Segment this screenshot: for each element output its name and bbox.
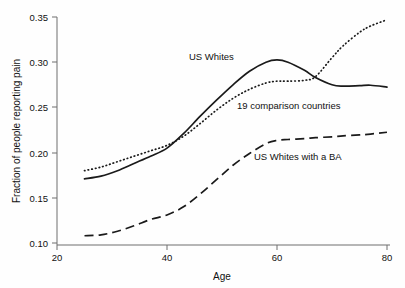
y-axis-title: Fraction of people reporting pain: [11, 59, 22, 203]
y-tick-label: 0.30: [30, 57, 49, 68]
chart-container: 0.35 0.30 0.25 0.20 0.15 0.10 20 40 60 8…: [0, 0, 405, 288]
series-annotation-comparison-countries: 19 comparison countries: [237, 100, 341, 111]
y-tick-label: 0.20: [30, 148, 49, 159]
x-tick-label: 60: [272, 252, 283, 263]
y-tick-label: 0.25: [30, 102, 49, 113]
line-chart-svg: 0.35 0.30 0.25 0.20 0.15 0.10 20 40 60 8…: [0, 0, 405, 288]
x-axis-title: Age: [213, 271, 231, 282]
y-tick-label: 0.15: [30, 193, 49, 204]
x-tick-label: 40: [162, 252, 173, 263]
x-tick-label: 20: [52, 252, 63, 263]
x-tick-label: 80: [382, 252, 393, 263]
series-annotation-us-whites: US Whites: [189, 51, 234, 62]
series-annotation-us-whites-ba: US Whites with a BA: [254, 151, 342, 162]
series-line-comparison-countries: [85, 20, 388, 171]
series-line-us-whites-ba: [85, 132, 388, 236]
y-tick-label: 0.35: [30, 12, 49, 23]
y-tick-label: 0.10: [30, 238, 49, 249]
